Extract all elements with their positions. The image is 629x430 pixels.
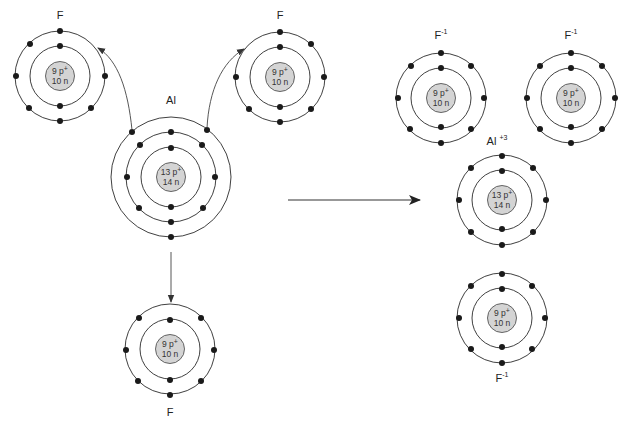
electron: [136, 205, 142, 211]
electron: [438, 50, 444, 56]
electron: [612, 95, 618, 101]
electron: [543, 197, 549, 203]
electron-transfer-diagram: F 9 p+ 10 n F 9 p+ 10 n Al: [0, 0, 629, 430]
electron: [468, 283, 474, 289]
electron: [212, 174, 218, 180]
electron: [198, 378, 204, 384]
electron: [468, 165, 474, 171]
neutron-count: 10 n: [433, 98, 450, 108]
electron: [168, 219, 174, 225]
electron: [277, 119, 283, 125]
valence-electron: [168, 234, 174, 240]
electron: [395, 95, 401, 101]
electron: [277, 44, 283, 50]
aluminum-ion: Al+3 13 p+ 14 n: [456, 134, 549, 248]
neutron-count: 14 n: [494, 200, 511, 210]
electron: [200, 205, 206, 211]
fluorine-atom-top-right: F 9 p+ 10 n: [233, 9, 327, 125]
neutron-count: 10 n: [52, 76, 69, 86]
electron: [537, 126, 543, 132]
electron: [530, 229, 536, 235]
electron: [167, 317, 173, 323]
ion-label: F-1: [565, 28, 578, 41]
electron: [530, 165, 536, 171]
electron: [529, 346, 535, 352]
electron: [57, 118, 63, 124]
electron: [568, 50, 574, 56]
electron: [57, 43, 63, 49]
electron: [308, 106, 314, 112]
electron: [568, 140, 574, 146]
electron: [233, 74, 239, 80]
atom-label: F: [167, 406, 174, 418]
electron: [568, 124, 574, 130]
electron: [599, 126, 605, 132]
electron: [211, 347, 217, 353]
electron: [599, 63, 605, 69]
electron: [542, 315, 548, 321]
fluorine-atom-bottom: 9 p+ 10 n F: [123, 304, 217, 418]
electron: [408, 63, 414, 69]
electron: [499, 271, 505, 277]
electron: [568, 65, 574, 71]
atom-label: F: [277, 9, 284, 21]
ion-label: Al+3: [487, 134, 508, 147]
electron: [438, 124, 444, 130]
electron: [168, 145, 174, 151]
fluoride-ion-left: F-1 9 p+ 10 n: [395, 28, 487, 146]
electron: [102, 73, 108, 79]
electron: [57, 28, 63, 34]
electron: [168, 204, 174, 210]
electron: [499, 153, 505, 159]
fluoride-ion-right: F-1 9 p+ 10 n: [524, 28, 618, 146]
electron: [438, 140, 444, 146]
electron: [137, 142, 143, 148]
neutron-count: 10 n: [563, 98, 580, 108]
electron: [499, 344, 505, 350]
ion-label: F-1: [435, 28, 448, 41]
electron: [277, 104, 283, 110]
neutron-count: 10 n: [494, 318, 511, 328]
electron: [456, 197, 462, 203]
fluorine-atom-top-left: F 9 p+ 10 n: [13, 9, 108, 124]
electron: [135, 378, 141, 384]
neutron-count: 10 n: [162, 349, 179, 359]
electron: [246, 106, 252, 112]
electron: [468, 346, 474, 352]
electron: [499, 360, 505, 366]
electron: [499, 226, 505, 232]
electron: [529, 283, 535, 289]
electron: [277, 29, 283, 35]
electron: [168, 129, 174, 135]
neutron-count: 10 n: [272, 77, 289, 87]
electron: [438, 65, 444, 71]
atom-label: F: [57, 9, 64, 21]
electron: [499, 242, 505, 248]
electron: [167, 392, 173, 398]
electron: [499, 168, 505, 174]
electron: [524, 95, 530, 101]
electron: [124, 174, 130, 180]
electron: [123, 347, 129, 353]
electron: [407, 126, 413, 132]
fluoride-ion-bottom: 9 p+ 10 n F-1: [456, 271, 548, 384]
electron: [27, 41, 33, 47]
electron: [57, 103, 63, 109]
aluminum-atom: Al 13 p+ 14 n: [111, 94, 231, 240]
ion-label: F-1: [496, 371, 509, 384]
electron: [26, 105, 32, 111]
electron: [308, 41, 314, 47]
electron: [537, 63, 543, 69]
electron: [198, 315, 204, 321]
electron: [136, 315, 142, 321]
electron: [468, 63, 474, 69]
electron: [499, 286, 505, 292]
electron: [321, 74, 327, 80]
electron: [13, 73, 19, 79]
neutron-count: 14 n: [163, 177, 180, 187]
electron: [199, 142, 205, 148]
electron: [167, 377, 173, 383]
electron: [88, 105, 94, 111]
electron: [468, 126, 474, 132]
electron: [481, 95, 487, 101]
